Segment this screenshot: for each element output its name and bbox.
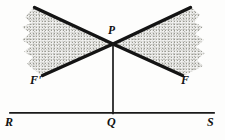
left-cone-region <box>0 0 120 90</box>
label-point-f: F <box>181 74 189 86</box>
label-point-f-prime: F' <box>30 74 41 86</box>
label-point-s: S <box>207 116 214 128</box>
label-point-p: P <box>108 25 115 37</box>
label-point-r: R <box>5 116 13 128</box>
label-point-q: Q <box>107 116 116 128</box>
geometry-figure: P F' F R Q S <box>0 0 225 140</box>
right-cone-region <box>105 0 225 90</box>
